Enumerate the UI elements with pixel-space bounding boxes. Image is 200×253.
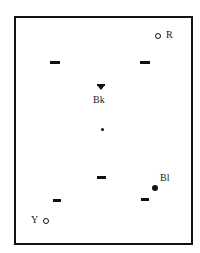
dash-marker xyxy=(97,176,106,179)
marker-bl-label: Bl xyxy=(160,173,169,183)
dash-marker xyxy=(140,61,150,64)
dash-marker xyxy=(141,198,149,201)
marker-bk-triangle-down-icon xyxy=(97,85,105,90)
marker-r-open-circle-icon xyxy=(155,33,161,39)
marker-y-label: Y xyxy=(31,215,38,225)
marker-bk-label: Bk xyxy=(93,95,105,105)
dash-marker xyxy=(50,61,60,64)
marker-r-label: R xyxy=(166,30,173,40)
marker-bl-filled-circle-icon xyxy=(152,185,158,191)
marker-y-open-circle-icon xyxy=(43,218,49,224)
center-dot-icon xyxy=(101,128,104,131)
dash-marker xyxy=(53,199,61,202)
